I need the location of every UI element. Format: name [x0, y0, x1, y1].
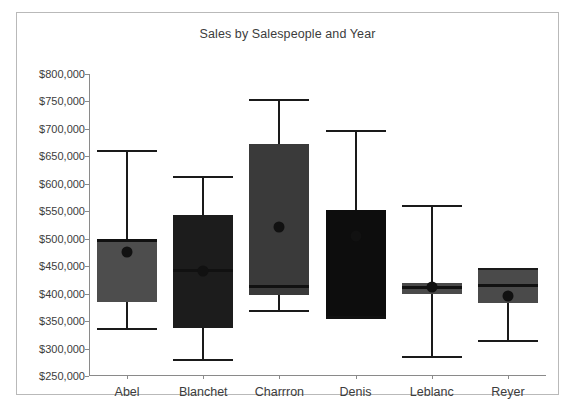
chart-frame: Sales by Salespeople and Year $800,000$7… — [16, 12, 559, 395]
x-axis-tick-label: Blanchet — [179, 385, 228, 399]
y-axis-tick-label: $400,000 — [21, 288, 85, 300]
whisker-cap-lower — [478, 340, 538, 342]
y-axis-tick-label: $800,000 — [21, 68, 85, 80]
chart-title: Sales by Salespeople and Year — [17, 27, 558, 41]
y-axis-tick-mark — [85, 376, 89, 377]
y-axis-tick-label: $250,000 — [21, 370, 85, 382]
x-axis-tick-label: Charrron — [255, 385, 304, 399]
y-axis-label-column: $800,000$750,000$700,000$650,000$600,000… — [17, 13, 85, 396]
y-axis-tick-label: $300,000 — [21, 343, 85, 355]
y-axis-tick-label: $550,000 — [21, 205, 85, 217]
y-axis-tick-label: $700,000 — [21, 123, 85, 135]
x-axis-tick-label: Denis — [340, 385, 372, 399]
y-axis-tick-label: $450,000 — [21, 260, 85, 272]
x-axis-tick-label: Reyer — [491, 385, 524, 399]
y-axis-tick-label: $650,000 — [21, 150, 85, 162]
mean-marker — [502, 290, 513, 301]
y-axis-tick-label: $600,000 — [21, 178, 85, 190]
y-axis-tick-label: $500,000 — [21, 233, 85, 245]
plot-area: AbelBlanchetCharrronDenisLeblancReyer — [89, 74, 546, 376]
x-axis-tick-label: Leblanc — [410, 385, 454, 399]
chart-screenshot: Sales by Salespeople and Year $800,000$7… — [0, 0, 577, 418]
y-axis-tick-label: $350,000 — [21, 315, 85, 327]
x-axis-tick-label: Abel — [115, 385, 140, 399]
y-axis-tick-label: $750,000 — [21, 95, 85, 107]
box-plot-reyer[interactable] — [89, 74, 546, 376]
whisker-cap-upper — [478, 268, 538, 270]
median-line — [478, 284, 538, 287]
